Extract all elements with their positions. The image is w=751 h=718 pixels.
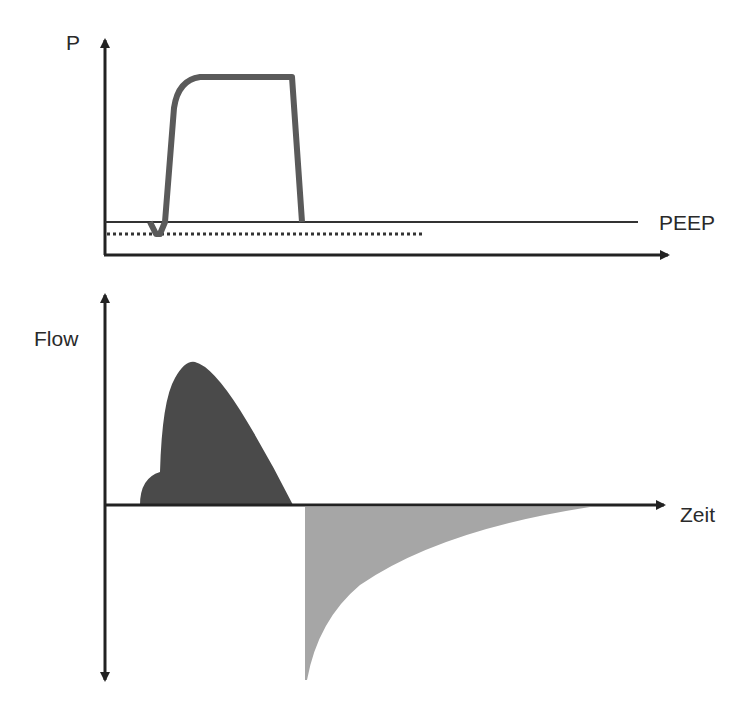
flow-axis-label: Flow — [34, 327, 79, 350]
time-axis-label: Zeit — [680, 503, 715, 526]
pressure-curve — [150, 77, 302, 234]
expiration-flow-area — [305, 507, 590, 680]
peep-label: PEEP — [659, 211, 715, 234]
flow-plot: Flow Zeit — [34, 295, 715, 680]
ventilation-waveform-diagram: P PEEP Flow Zeit — [0, 0, 751, 718]
pressure-axis-label: P — [66, 31, 80, 54]
inspiration-flow-area — [140, 362, 293, 505]
pressure-plot: P PEEP — [66, 31, 715, 255]
